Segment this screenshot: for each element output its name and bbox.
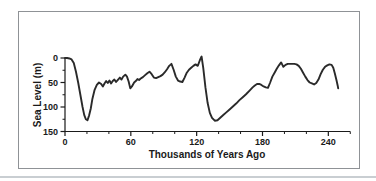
bottom-divider-line xyxy=(0,176,376,178)
y-tick-label: 100 xyxy=(43,102,58,112)
x-tick-label: 240 xyxy=(321,137,336,147)
chart-axes-group: 060120180240050100150 xyxy=(43,53,350,147)
sea-level-chart: 060120180240050100150 Sea Level (m) Thou… xyxy=(19,12,359,168)
figure-frame: 060120180240050100150 Sea Level (m) Thou… xyxy=(18,11,360,169)
axis-lines xyxy=(65,58,350,132)
sea-level-line xyxy=(65,57,338,121)
y-tick-label: 50 xyxy=(48,78,58,88)
x-tick-label: 180 xyxy=(255,137,270,147)
x-tick-label: 60 xyxy=(126,137,136,147)
x-axis-title: Thousands of Years Ago xyxy=(149,149,266,160)
y-tick-label: 150 xyxy=(43,127,58,137)
x-tick-label: 0 xyxy=(62,137,67,147)
x-tick-label: 120 xyxy=(189,137,204,147)
y-axis-title: Sea Level (m) xyxy=(32,63,43,127)
y-tick-label: 0 xyxy=(53,53,58,63)
